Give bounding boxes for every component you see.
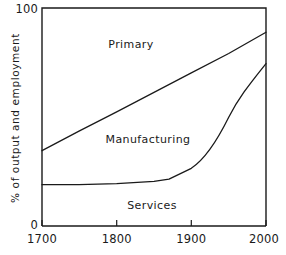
economic-sectors-area-chart: 100 0 1700 1800 1900 2000 % of output an… [0, 0, 286, 255]
x-tick-label-1800: 1800 [102, 232, 132, 246]
plot-frame [42, 8, 266, 226]
x-tick-label-2000: 2000 [249, 232, 279, 246]
region-label-services: Services [127, 199, 177, 212]
x-tick-label-1900: 1900 [176, 232, 206, 246]
y-tick-label-0: 0 [30, 218, 38, 232]
axis-frame-path [42, 8, 266, 226]
region-label-primary: Primary [108, 38, 153, 51]
chart-container: 100 0 1700 1800 1900 2000 % of output an… [0, 0, 286, 255]
x-tick-label-1700: 1700 [27, 232, 57, 246]
manufacturing-services-boundary-curve [42, 64, 266, 185]
region-label-manufacturing: Manufacturing [106, 133, 191, 146]
y-axis-title: % of output and employment [9, 33, 21, 203]
y-tick-label-100: 100 [15, 2, 38, 16]
x-axis-ticks [42, 220, 266, 226]
